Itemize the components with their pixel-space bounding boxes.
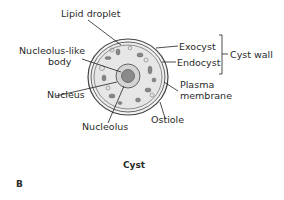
label-nucleolus-like-body-line1: Nucleolus-like	[19, 45, 85, 56]
label-nucleus: Nucleus	[47, 89, 85, 100]
label-lipid-droplet: Lipid droplet	[61, 8, 120, 19]
label-endocyst: Endocyst	[177, 57, 220, 68]
panel-letter: B	[16, 179, 23, 190]
label-cyst-wall: Cyst wall	[230, 49, 273, 60]
label-ostiole: Ostiole	[151, 114, 184, 125]
label-nucleolus-like-body-line2: body	[48, 56, 72, 67]
figure-title: Cyst	[123, 160, 145, 171]
label-exocyst: Exocyst	[179, 41, 216, 52]
label-plasma-membrane-line2: membrane	[180, 90, 232, 101]
label-plasma-membrane-line1: Plasma	[180, 79, 214, 90]
label-nucleolus: Nucleolus	[82, 121, 128, 132]
